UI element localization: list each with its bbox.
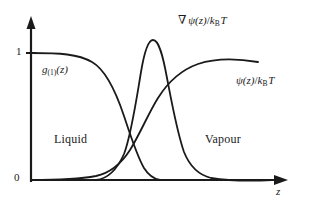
curve-label-potential: ψ(z)/kB T <box>236 75 274 88</box>
y-tick-label-zero: 0 <box>14 172 20 183</box>
region-label-vapour: Vapour <box>205 133 241 145</box>
x-axis-arrowhead <box>274 175 288 185</box>
psi-symbol: ψ <box>236 74 243 86</box>
region-label-liquid: Liquid <box>54 133 87 145</box>
x-axis-label: z <box>276 186 280 197</box>
y-tick-label-one: 1 <box>16 46 22 57</box>
curve-potential-psi <box>31 60 258 180</box>
plot-canvas <box>0 0 310 210</box>
curve-label-gradient-potential: ∇ ψ(z)/kB T <box>178 14 227 28</box>
psi-argument: (z) <box>195 14 207 26</box>
psi-argument: (z) <box>243 74 255 86</box>
g-subscript: (1) <box>48 68 57 77</box>
y-axis-arrowhead <box>27 16 36 29</box>
figure-container: 1 0 z Liquid Vapour g(1)(z) ∇ ψ(z)/kB T … <box>0 0 310 210</box>
temperature-symbol: T <box>268 74 274 86</box>
curve-label-density: g(1)(z) <box>42 64 68 77</box>
temperature-symbol: T <box>221 14 227 26</box>
g-argument: (z) <box>56 63 68 75</box>
